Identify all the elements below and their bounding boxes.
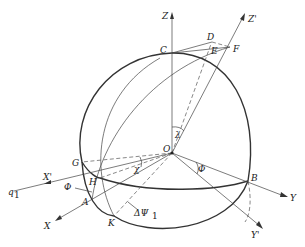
origin-point: [170, 151, 173, 154]
label-h: H: [88, 177, 97, 187]
z-arrow-icon: [170, 12, 174, 19]
label-lambda: λ: [174, 130, 181, 140]
label-phi-right: Φ: [198, 164, 205, 174]
phi-left-leader: [75, 188, 92, 192]
label-x-prime: X': [42, 172, 52, 182]
label-b: B: [250, 173, 258, 183]
label-delta-psi: ΔΨ: [133, 208, 149, 218]
x-arrow-icon: [55, 215, 62, 221]
line-c-d: [172, 42, 212, 53]
label-delta-psi-sub: 1: [152, 211, 158, 221]
label-a: A: [81, 197, 89, 207]
label-f: F: [232, 44, 240, 54]
label-z-prime: Z': [247, 14, 257, 24]
label-o: O: [163, 144, 171, 154]
z-prime-arrow-icon: [240, 13, 245, 21]
label-d: D: [206, 32, 214, 42]
label-g: G: [72, 158, 79, 168]
sphere-outline: [80, 53, 251, 181]
label-y-prime: Y': [251, 230, 259, 240]
label-phi-left: Φ: [64, 182, 71, 192]
label-z: Z: [161, 11, 169, 21]
label-q-sub: 1: [14, 190, 20, 200]
y-arrow-icon: [280, 192, 288, 197]
label-k: K: [107, 218, 116, 228]
chi-angle-arc: [140, 157, 142, 167]
meridian-arc-h: [92, 47, 230, 200]
label-c: C: [160, 45, 167, 55]
label-x: X: [43, 221, 51, 231]
label-e: E: [210, 46, 218, 56]
y-prime-arrow-icon: [256, 221, 263, 229]
label-y: Y: [290, 193, 297, 203]
meridian-arc-inner: [101, 58, 160, 216]
sphere-diagram: Z Z' C D E F λ O G X' q 1 Φ H χ A ΔΨ 1 X…: [0, 0, 305, 247]
label-chi: χ: [133, 164, 140, 174]
